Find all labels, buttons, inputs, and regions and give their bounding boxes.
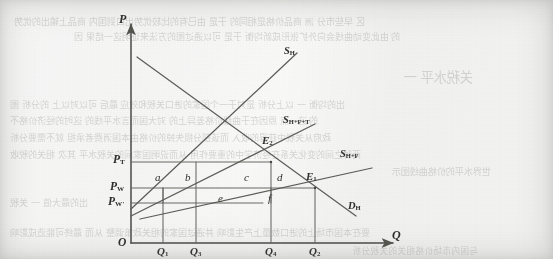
- price-label-pw-prime: PW': [108, 195, 124, 208]
- area-label-a: a: [155, 171, 161, 183]
- area-label-b: b: [185, 171, 191, 183]
- area-label-d: d: [277, 171, 283, 183]
- x-axis-label: Q: [392, 228, 401, 243]
- curve-label-domestic-supply: SH: [284, 45, 295, 56]
- point-e1: [314, 187, 317, 190]
- curve-label-supply-free-trade: SH+F: [340, 148, 359, 159]
- curve-label-supply-with-tariff: SH+F+T: [283, 114, 310, 125]
- curve-supply-with-tariff: [131, 124, 315, 216]
- area-label-c: c: [244, 171, 249, 183]
- qty-label-q4: Q4: [265, 245, 276, 257]
- scanned-page: 区 早些市分 洲 商品价格是相同的 于是 由已有的比较优势出口到国内 商品上输出…: [0, 0, 553, 259]
- curve-domestic-supply: [131, 53, 297, 209]
- curve-domestic-demand: [137, 57, 356, 216]
- price-label-pw: PW: [110, 180, 124, 193]
- qty-label-q1: Q1: [157, 245, 168, 257]
- origin-label: O: [118, 236, 126, 248]
- area-label-e: e: [218, 192, 223, 204]
- price-label-pt: PT: [113, 153, 125, 166]
- equilibrium-label-e2: E2: [262, 134, 273, 146]
- qty-label-q3: Q3: [190, 245, 201, 257]
- tariff-welfare-diagram: [0, 0, 553, 259]
- qty-label-q2: Q2: [309, 245, 320, 257]
- area-label-f: f: [268, 192, 271, 204]
- curve-label-domestic-demand: DH: [348, 200, 361, 211]
- equilibrium-label-e1: E1: [306, 170, 317, 182]
- y-axis-label: P: [119, 12, 126, 27]
- point-e2: [270, 161, 273, 164]
